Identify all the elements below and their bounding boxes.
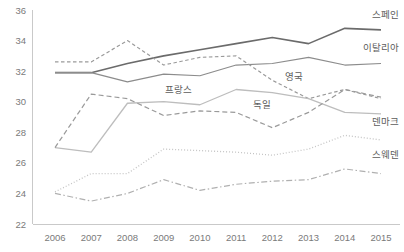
series-label: 영국: [285, 71, 303, 82]
y-tick-label: 36: [15, 5, 26, 16]
series-label: 이탈리아: [363, 42, 399, 53]
x-tick-label: 2009: [153, 232, 174, 243]
series-line: [55, 135, 381, 192]
x-tick-label: 2013: [298, 232, 319, 243]
series-label: 덴마크: [372, 116, 399, 127]
x-tick-label: 2010: [189, 232, 210, 243]
series-labels-group: 스페인이탈리아영국프랑스독일덴마크스웨덴: [165, 9, 399, 159]
series-label: 스페인: [372, 9, 399, 20]
y-tick-label: 22: [15, 219, 26, 230]
x-tick-label: 2008: [117, 232, 138, 243]
y-tick-label: 28: [15, 127, 26, 138]
y-tick-label: 30: [15, 96, 26, 107]
y-tick-label: 34: [15, 35, 26, 46]
series-label: 독일: [253, 99, 271, 110]
x-tick-label: 2012: [262, 232, 283, 243]
series-line: [55, 89, 381, 147]
series-label: 스웨덴: [372, 149, 399, 160]
series-line: [55, 89, 381, 152]
series-line: [55, 169, 381, 201]
x-axis-tick-labels: 2006200720082009201020112012201320142015: [44, 232, 391, 243]
series-line: [55, 28, 381, 72]
x-tick-label: 2015: [370, 232, 391, 243]
series-lines-group: [55, 28, 381, 201]
y-axis-tick-labels: 2224262830323436: [15, 5, 26, 230]
line-chart: 2224262830323436 20062007200820092010201…: [0, 0, 404, 252]
x-tick-label: 2011: [226, 232, 246, 243]
y-tick-label: 24: [15, 188, 26, 199]
x-tick-label: 2006: [44, 232, 65, 243]
y-tick-label: 26: [15, 157, 26, 168]
chart-svg: 2224262830323436 20062007200820092010201…: [0, 0, 404, 252]
x-tick-label: 2014: [334, 232, 355, 243]
x-tick-label: 2007: [81, 232, 102, 243]
series-label: 프랑스: [165, 84, 192, 95]
y-tick-label: 32: [15, 66, 26, 77]
